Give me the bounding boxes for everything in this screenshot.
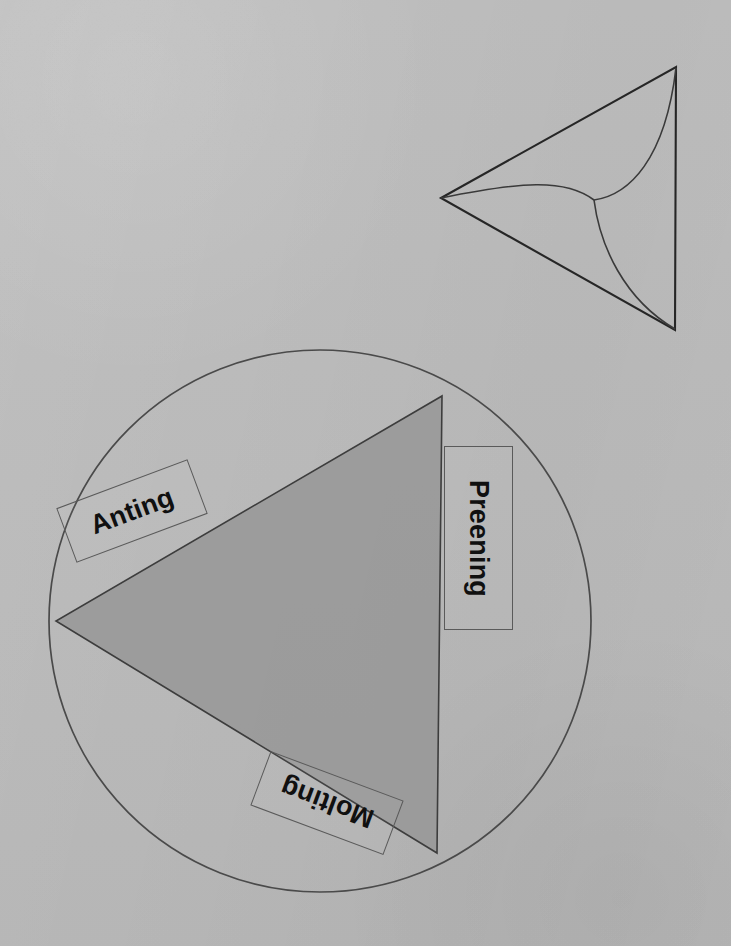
diagram-page: Anting Preening Molting (0, 0, 731, 946)
label-box-preening[interactable]: Preening (444, 446, 513, 630)
label-text-preening: Preening (465, 479, 492, 596)
bottom-filled-triangle (56, 396, 442, 853)
